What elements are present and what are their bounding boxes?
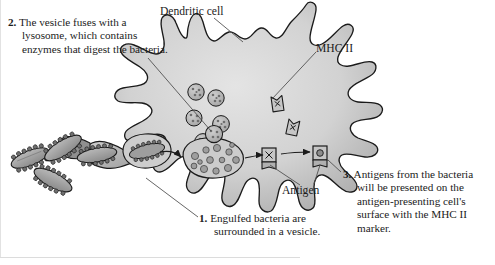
caption-step-2-text: The vesicle fuses with a lysosome, which… <box>19 16 168 55</box>
antigen-presentation-figure: Dendritic cell MHC II Antigen 2. The ves… <box>0 0 495 265</box>
caption-step-2-number: 2. <box>8 16 16 28</box>
caption-step-2: 2. The vesicle fuses with a lysosome, wh… <box>8 16 173 56</box>
mhc-antigen-complex <box>313 146 327 167</box>
caption-step-3: 3. Antigens from the bacteria will be pr… <box>343 168 493 235</box>
caption-step-3-text: Antigens from the bacteria will be prese… <box>354 168 474 234</box>
caption-step-1-text: Engulfed bacteria are surrounded in a ve… <box>210 212 320 237</box>
lysosome-icon <box>208 90 224 106</box>
caption-step-3-number: 3. <box>343 168 351 180</box>
mhc-antigen-complex <box>262 148 276 169</box>
label-mhc-ii: MHC II <box>316 42 353 55</box>
label-antigen: Antigen <box>282 184 319 197</box>
lysosome-icon <box>188 84 204 100</box>
caption-step-1: 1. Engulfed bacteria are surrounded in a… <box>199 212 349 239</box>
caption-step-1-number: 1. <box>199 212 207 224</box>
